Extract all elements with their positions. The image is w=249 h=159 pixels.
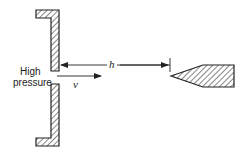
needle-probe — [171, 65, 234, 87]
upper-wall — [36, 10, 59, 71]
pressure-label-line1: High — [20, 66, 41, 77]
velocity-label: v — [73, 78, 78, 90]
lower-wall — [36, 84, 59, 146]
pressure-label-line2: pressure — [13, 77, 52, 88]
h-dimension-arrow: h — [61, 58, 170, 72]
v-velocity-arrow: v — [57, 76, 101, 90]
flow-diagram: h v High pressure — [0, 0, 249, 159]
distance-label: h — [109, 58, 115, 70]
